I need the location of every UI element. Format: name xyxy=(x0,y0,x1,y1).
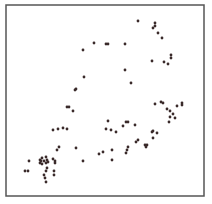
data-point xyxy=(170,57,173,60)
data-point xyxy=(157,32,160,35)
data-point xyxy=(111,159,114,162)
data-point xyxy=(52,129,55,132)
data-point xyxy=(134,124,137,127)
data-point xyxy=(169,116,172,119)
data-point xyxy=(135,141,138,144)
data-point xyxy=(58,146,61,149)
data-point xyxy=(66,128,69,131)
data-point xyxy=(137,20,140,23)
data-point xyxy=(124,69,127,72)
data-point xyxy=(156,132,159,135)
data-point xyxy=(110,129,113,132)
data-point xyxy=(130,82,133,85)
data-point xyxy=(107,120,110,123)
data-point xyxy=(115,131,118,134)
data-point xyxy=(102,151,105,154)
data-point xyxy=(154,25,157,28)
data-point xyxy=(105,128,108,131)
data-point xyxy=(152,130,155,133)
data-point xyxy=(154,22,157,25)
data-point xyxy=(68,106,71,109)
data-point xyxy=(125,152,128,155)
data-point xyxy=(82,49,85,52)
data-point xyxy=(53,170,56,173)
data-point xyxy=(126,149,129,152)
data-point xyxy=(54,162,57,165)
data-point xyxy=(41,157,44,160)
data-point xyxy=(152,27,155,30)
data-point xyxy=(57,128,60,131)
data-point xyxy=(72,110,75,113)
data-point xyxy=(107,43,110,46)
data-point xyxy=(44,177,47,180)
data-point xyxy=(127,146,130,149)
data-point xyxy=(111,149,114,152)
plot-frame xyxy=(6,5,204,196)
data-point xyxy=(167,63,170,66)
data-point xyxy=(28,160,31,163)
data-point xyxy=(124,43,127,46)
data-point xyxy=(154,103,157,106)
data-point xyxy=(43,160,46,163)
data-point xyxy=(137,139,140,142)
data-point xyxy=(170,54,173,57)
data-point xyxy=(145,146,148,149)
data-point xyxy=(43,174,46,177)
data-point xyxy=(27,170,30,173)
data-point xyxy=(62,127,65,130)
data-point xyxy=(74,89,77,92)
data-point xyxy=(52,158,55,161)
data-point xyxy=(174,117,177,120)
data-point xyxy=(83,76,86,79)
data-points xyxy=(24,20,184,184)
data-point xyxy=(98,153,101,156)
data-point xyxy=(93,42,96,45)
data-point xyxy=(122,125,125,128)
data-point xyxy=(151,60,154,63)
data-point xyxy=(47,161,50,164)
data-point xyxy=(166,108,169,111)
data-point xyxy=(41,163,44,166)
data-point xyxy=(161,37,164,40)
data-point xyxy=(45,170,48,173)
data-point xyxy=(53,174,56,177)
data-point xyxy=(127,121,130,124)
data-point xyxy=(45,181,48,184)
data-point xyxy=(168,121,171,124)
data-point xyxy=(56,149,59,152)
data-point xyxy=(169,110,172,113)
data-point xyxy=(40,160,43,163)
data-point xyxy=(172,113,175,116)
data-point xyxy=(45,156,48,159)
data-point xyxy=(176,105,179,108)
data-point xyxy=(24,170,27,173)
data-point xyxy=(82,160,85,163)
data-point xyxy=(163,61,166,64)
scatter-plot xyxy=(0,0,212,204)
data-point xyxy=(181,104,184,107)
data-point xyxy=(152,137,155,140)
data-point xyxy=(46,167,49,170)
data-point xyxy=(162,102,165,105)
data-point xyxy=(75,147,78,150)
